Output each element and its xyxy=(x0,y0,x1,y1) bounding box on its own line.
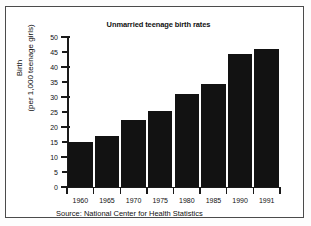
x-tick-mark xyxy=(253,187,254,194)
x-tick-label: 1985 xyxy=(200,197,226,204)
x-tick-mark xyxy=(66,187,67,194)
y-tick-label: 40 xyxy=(42,64,58,71)
chart-title: Unmarried teenage birth rates xyxy=(66,20,251,29)
x-tick-label: 1965 xyxy=(94,197,120,204)
x-tick-label: 1980 xyxy=(174,197,200,204)
x-tick-label: 1991 xyxy=(254,197,280,204)
y-tick-label: 10 xyxy=(42,154,58,161)
y-tick-label: 0 xyxy=(42,184,58,191)
x-tick-mark xyxy=(199,187,200,194)
x-tick-mark xyxy=(173,187,174,194)
x-tick-mark xyxy=(279,187,280,194)
x-tick-label: 1975 xyxy=(147,197,173,204)
x-tick-label: 1960 xyxy=(67,197,93,204)
x-tick-mark xyxy=(146,187,147,194)
y-tick-label: 20 xyxy=(42,124,58,131)
source-note: Source: National Center for Health Stati… xyxy=(56,209,203,218)
y-axis-title-line2: (per 1,000 teenage girls) xyxy=(25,8,36,128)
x-tick-mark xyxy=(93,187,94,194)
bar xyxy=(148,111,172,188)
bar xyxy=(228,54,252,188)
x-tick-label: 1990 xyxy=(227,197,253,204)
bar xyxy=(254,49,278,187)
bar xyxy=(201,84,225,188)
y-tick-label: 15 xyxy=(42,139,58,146)
bar xyxy=(121,120,145,188)
y-tick-label: 30 xyxy=(42,94,58,101)
y-axis-title: Birth (per 1,000 teenage girls) xyxy=(14,8,36,128)
y-tick-label: 50 xyxy=(42,34,58,41)
y-tick-label: 25 xyxy=(42,109,58,116)
plot-area xyxy=(67,37,279,187)
x-tick-mark xyxy=(226,187,227,194)
chart-frame: Unmarried teenage birth rates Birth (per… xyxy=(5,6,304,218)
y-tick-label: 45 xyxy=(42,49,58,56)
y-tick-label: 5 xyxy=(42,169,58,176)
y-axis-title-line1: Birth xyxy=(14,8,25,128)
y-tick-label: 35 xyxy=(42,79,58,86)
bar xyxy=(68,142,92,187)
figure: Unmarried teenage birth rates Birth (per… xyxy=(0,0,311,226)
x-tick-mark xyxy=(120,187,121,194)
bar xyxy=(95,136,119,187)
x-tick-label: 1970 xyxy=(121,197,147,204)
bar xyxy=(175,94,199,187)
